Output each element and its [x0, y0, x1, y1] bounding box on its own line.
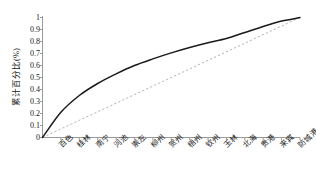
plot-area [0, 0, 316, 183]
reference-diagonal-line [43, 18, 301, 138]
cumulative-percentage-chart: 累计百分比(%) 00.10.20.30.40.50.60.70.80.91 百… [0, 0, 316, 183]
